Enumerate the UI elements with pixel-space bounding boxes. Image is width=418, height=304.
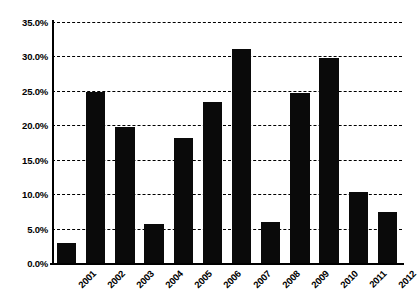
bar-2007[interactable]: [232, 49, 251, 263]
x-tick-label-2003: 2003: [134, 268, 156, 290]
y-tick-label: 35.0%: [22, 17, 48, 28]
y-tick-label: 15.0%: [22, 154, 48, 165]
y-tick-label: 0.0%: [27, 258, 48, 269]
plot-area: [52, 22, 402, 263]
bar-2010[interactable]: [319, 58, 338, 263]
x-tick-label-2008: 2008: [280, 268, 302, 290]
y-tick-label: 10.0%: [22, 189, 48, 200]
bar-slot: [140, 22, 169, 263]
x-tick-label-2011: 2011: [367, 268, 389, 290]
bar-slot: [227, 22, 256, 263]
bar-2012[interactable]: [378, 212, 397, 263]
bar-2001[interactable]: [57, 243, 76, 263]
bar-slot: [52, 22, 81, 263]
bar-slot: [285, 22, 314, 263]
y-tick-label: 30.0%: [22, 51, 48, 62]
x-axis-tick-labels: 2001200220032004200520062007200820092010…: [52, 265, 402, 304]
bar-2006[interactable]: [203, 102, 222, 263]
x-tick-label-2010: 2010: [338, 268, 360, 290]
x-tick-label-2001: 2001: [75, 268, 97, 290]
bar-slot: [315, 22, 344, 263]
bar-2003[interactable]: [115, 127, 134, 263]
bar-slot: [198, 22, 227, 263]
x-tick-label-2004: 2004: [163, 268, 185, 290]
bar-slot: [110, 22, 139, 263]
bar-chart: 0.0%5.0%10.0%15.0%20.0%25.0%30.0%35.0% 2…: [0, 0, 418, 304]
bar-2004[interactable]: [144, 224, 163, 263]
y-tick-label: 25.0%: [22, 85, 48, 96]
bar-2005[interactable]: [174, 138, 193, 263]
x-tick-label-2006: 2006: [221, 268, 243, 290]
bar-2011[interactable]: [349, 192, 368, 263]
x-tick-label-2007: 2007: [250, 268, 272, 290]
y-tick-label: 5.0%: [27, 223, 48, 234]
bar-slot: [169, 22, 198, 263]
bar-slot: [373, 22, 402, 263]
y-tick-label: 20.0%: [22, 120, 48, 131]
bar-slot: [344, 22, 373, 263]
bar-2008[interactable]: [261, 222, 280, 263]
bar-2002[interactable]: [86, 92, 105, 263]
bar-2009[interactable]: [290, 93, 309, 263]
x-tick-label-2005: 2005: [192, 268, 214, 290]
bar-slot: [256, 22, 285, 263]
x-tick-label-2012: 2012: [396, 268, 418, 290]
x-tick-label-2002: 2002: [105, 268, 127, 290]
x-tick-label-2009: 2009: [309, 268, 331, 290]
y-axis-tick-labels: 0.0%5.0%10.0%15.0%20.0%25.0%30.0%35.0%: [0, 22, 48, 263]
bar-slot: [81, 22, 110, 263]
